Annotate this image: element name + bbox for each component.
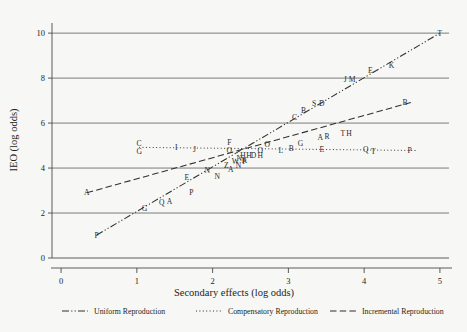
point-label-0-11: O xyxy=(264,140,270,149)
point-label-2-2: N xyxy=(205,166,211,175)
point-label-1-9: Q xyxy=(363,145,369,154)
chart-canvas: PGQAPNANKHOOCBSDJMEKTCGIJFOLBEQTPAENZWNH… xyxy=(0,0,467,332)
point-label-0-14: S xyxy=(312,99,316,108)
point-label-0-12: C xyxy=(292,113,297,122)
x-axis-title: Secondary effects (log odds) xyxy=(174,287,295,299)
point-label-0-17: M xyxy=(349,75,356,84)
legend-label-0: Uniform Reproduction xyxy=(94,307,165,316)
point-label-0-15: D xyxy=(319,99,325,108)
point-label-1-1: G xyxy=(136,147,142,156)
point-label-2-13: T xyxy=(341,129,346,138)
x-tick-label-4: 4 xyxy=(362,276,367,286)
y-tick-label-2: 2 xyxy=(41,208,45,218)
point-label-1-5: O xyxy=(227,146,233,155)
y-tick-label-6: 6 xyxy=(41,118,45,128)
point-label-0-6: A xyxy=(228,165,234,174)
legend-label-2: Incremental Reproduction xyxy=(362,307,444,316)
point-label-1-7: B xyxy=(289,144,294,153)
point-label-1-8: E xyxy=(319,145,324,154)
point-label-1-11: P xyxy=(407,146,411,155)
point-label-0-3: A xyxy=(167,197,173,206)
x-tick-label-5: 5 xyxy=(438,276,442,286)
point-label-1-3: J xyxy=(193,145,196,154)
point-label-2-1: E xyxy=(185,173,190,182)
point-label-2-14: H xyxy=(346,129,352,138)
y-tick-label-10: 10 xyxy=(37,28,46,38)
point-label-0-20: T xyxy=(438,29,443,38)
x-tick-label-3: 3 xyxy=(286,276,290,286)
x-tick-label-2: 2 xyxy=(210,276,214,286)
point-label-1-10: T xyxy=(371,147,376,156)
y-tick-label-0: 0 xyxy=(41,253,45,263)
x-tick-label-1: 1 xyxy=(135,276,139,286)
point-label-0-13: B xyxy=(301,106,306,115)
point-label-2-7: P xyxy=(242,157,246,166)
point-label-2-3: Z xyxy=(224,161,229,170)
point-label-2-9: H xyxy=(258,151,264,160)
y-tick-label-4: 4 xyxy=(41,163,46,173)
point-label-2-12: R xyxy=(324,132,330,141)
legend-label-1: Compensatory Reproduction xyxy=(228,307,318,316)
point-label-0-0: P xyxy=(95,231,99,240)
legend: Uniform ReproductionCompensatory Reprodu… xyxy=(62,307,444,316)
trend-lines xyxy=(87,33,440,235)
point-label-2-0: A xyxy=(84,188,90,197)
chart-figure: PGQAPNANKHOOCBSDJMEKTCGIJFOLBEQTPAENZWNH… xyxy=(0,0,467,332)
point-label-1-2: I xyxy=(175,143,178,152)
point-label-0-2: Q xyxy=(159,198,165,207)
data-point-labels: PGQAPNANKHOOCBSDJMEKTCGIJFOLBEQTPAENZWNH… xyxy=(84,29,442,240)
point-label-0-19: K xyxy=(389,61,395,70)
point-label-0-16: J xyxy=(344,75,347,84)
point-label-0-5: N xyxy=(214,172,220,181)
point-label-0-18: E xyxy=(368,66,373,75)
point-label-0-4: P xyxy=(189,188,193,197)
point-label-2-10: G xyxy=(298,139,304,148)
point-label-2-15: B xyxy=(403,98,408,107)
y-tick-label-8: 8 xyxy=(41,73,45,83)
point-label-1-6: L xyxy=(278,146,283,155)
point-label-2-8: D xyxy=(251,151,257,160)
point-label-2-11: A xyxy=(317,133,323,142)
y-axis-title: IEO (log odds) xyxy=(8,108,20,171)
point-label-0-1: G xyxy=(142,204,148,213)
x-tick-label-0: 0 xyxy=(59,276,63,286)
